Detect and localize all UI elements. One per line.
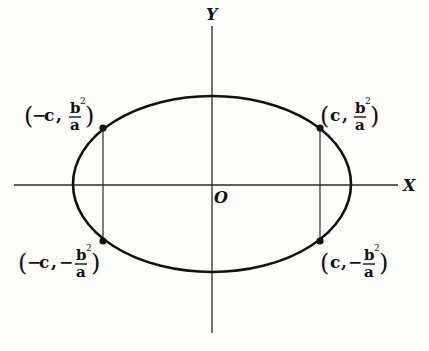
ellipse-latus-rectum-diagram: Y X O ( − c , b 2 a ) ( c , b 2 a ) ( − … (0, 0, 429, 351)
svg-text:c: c (330, 105, 340, 125)
svg-text:b: b (355, 99, 366, 117)
label-top-left: ( − c , b 2 a ) (24, 96, 94, 134)
svg-text:): ) (370, 102, 379, 130)
svg-text:,: , (342, 105, 348, 125)
point-bottom-right (316, 237, 323, 244)
svg-text:,: , (56, 105, 62, 125)
svg-text:): ) (379, 249, 388, 277)
svg-text:b: b (364, 246, 375, 264)
svg-text:,: , (51, 252, 57, 272)
label-top-right: ( c , b 2 a ) (320, 96, 379, 134)
svg-text:(: ( (18, 249, 27, 277)
svg-text:a: a (364, 263, 374, 281)
point-bottom-left (99, 237, 106, 244)
point-top-left (99, 124, 106, 131)
svg-text:(: ( (320, 102, 329, 130)
svg-text:b: b (70, 99, 81, 117)
svg-text:−: − (348, 252, 362, 272)
svg-text:): ) (85, 102, 94, 130)
svg-text:(: ( (320, 249, 329, 277)
svg-text:a: a (76, 263, 86, 281)
svg-text:c: c (330, 252, 340, 272)
svg-text:): ) (91, 249, 100, 277)
label-bottom-left: ( − c , − b 2 a ) (18, 243, 100, 281)
y-axis-label: Y (206, 5, 219, 24)
origin-label: O (214, 188, 228, 207)
svg-text:b: b (76, 246, 87, 264)
label-bottom-right: ( c , − b 2 a ) (320, 243, 388, 281)
svg-text:c: c (39, 252, 49, 272)
x-axis-label: X (402, 176, 416, 195)
svg-text:a: a (355, 116, 365, 134)
svg-text:a: a (70, 116, 80, 134)
svg-text:−: − (59, 252, 73, 272)
svg-text:c: c (44, 105, 54, 125)
svg-text:,: , (341, 252, 347, 272)
